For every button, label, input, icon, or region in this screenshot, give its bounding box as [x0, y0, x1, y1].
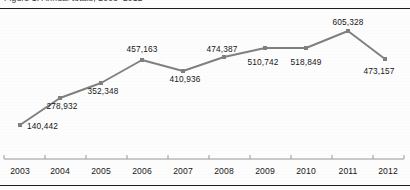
x-axis-year-label-2011: 2011: [328, 166, 368, 176]
data-point-marker: [140, 58, 144, 62]
x-axis-year-label-2009: 2009: [245, 166, 285, 176]
data-point-value-label: 410,936: [160, 74, 210, 84]
data-point-value-label: 352,348: [78, 86, 128, 96]
x-axis-year-label-2005: 2005: [81, 166, 121, 176]
x-axis-year-label-2012: 2012: [368, 166, 408, 176]
data-point-marker: [304, 46, 308, 50]
x-axis-year-label-2010: 2010: [286, 166, 326, 176]
data-point-marker: [222, 55, 226, 59]
data-point-value-label: 474,387: [197, 44, 247, 54]
x-axis-year-label-2003: 2003: [0, 166, 40, 176]
x-axis-year-label-2004: 2004: [40, 166, 80, 176]
data-point-marker: [99, 81, 103, 85]
data-point-value-label: 605,328: [323, 17, 373, 27]
data-point-marker: [346, 29, 350, 33]
data-point-marker: [383, 57, 387, 61]
x-axis-year-label-2006: 2006: [122, 166, 162, 176]
data-point-marker: [181, 69, 185, 73]
data-point-value-label: 457,163: [117, 44, 167, 54]
data-point-marker: [263, 46, 267, 50]
chart-figure: Figure 1. Annual totals, 2003–2012 140,4…: [0, 0, 410, 190]
x-axis: [4, 155, 404, 159]
data-point-value-label: 140,442: [27, 121, 58, 131]
x-axis-year-label-2007: 2007: [163, 166, 203, 176]
data-point-value-label: 518,849: [281, 57, 331, 67]
data-point-marker: [18, 123, 22, 127]
line-chart-plot: [0, 0, 410, 190]
data-point-value-label: 473,157: [354, 66, 404, 76]
data-point-value-label: 278,932: [37, 101, 87, 111]
data-point-marker: [58, 96, 62, 100]
x-axis-year-label-2008: 2008: [204, 166, 244, 176]
